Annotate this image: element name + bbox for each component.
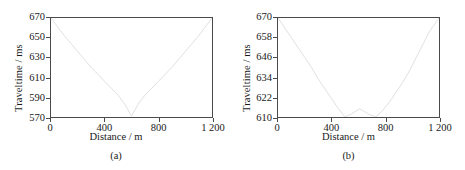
y-tick-label-b-4: 658 [239, 31, 272, 42]
y-tick-a-5 [46, 17, 50, 18]
y-tick-label-b-3: 646 [239, 51, 272, 62]
y-tick-label-a-1: 590 [12, 92, 45, 103]
traveltime-curve-a [51, 18, 212, 116]
chart-panel-b: Traveltime / ms 610622634646658670040080… [232, 0, 465, 170]
y-tick-label-a-3: 630 [12, 51, 45, 62]
x-axis-label-a: Distance / m [0, 131, 232, 142]
y-tick-label-b-2: 634 [239, 72, 272, 83]
panel-caption-b: (b) [232, 150, 465, 161]
chart-panel-a: Traveltime / ms 570590610630650670040080… [0, 0, 232, 170]
y-tick-label-b-1: 622 [239, 92, 272, 103]
plot-area-a [50, 17, 213, 118]
traveltime-curve-b [278, 18, 439, 117]
y-tick-b-4 [273, 37, 277, 38]
plot-area-b [277, 17, 440, 118]
y-tick-b-5 [273, 17, 277, 18]
y-tick-a-4 [46, 37, 50, 38]
y-tick-label-a-5: 670 [12, 11, 45, 22]
y-tick-a-3 [46, 57, 50, 58]
figure-container: Traveltime / ms 570590610630650670040080… [0, 0, 465, 170]
y-tick-b-1 [273, 98, 277, 99]
y-tick-a-1 [46, 98, 50, 99]
y-tick-a-2 [46, 78, 50, 79]
y-tick-label-b-5: 670 [239, 11, 272, 22]
y-tick-label-a-4: 650 [12, 31, 45, 42]
panel-caption-a: (a) [0, 150, 232, 161]
y-tick-b-3 [273, 57, 277, 58]
y-tick-label-a-2: 610 [12, 72, 45, 83]
curve-svg-b [278, 18, 439, 117]
y-tick-b-2 [273, 78, 277, 79]
curve-svg-a [51, 18, 212, 117]
x-axis-label-b: Distance / m [232, 131, 465, 142]
